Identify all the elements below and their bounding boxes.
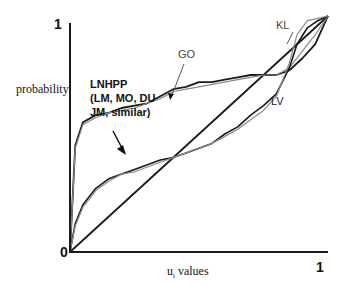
lnhpp-line-2: (LM, MO, DU — [90, 91, 155, 105]
y-tick-1: 1 — [54, 16, 62, 32]
diagonal-reference-line — [70, 16, 328, 252]
plot-area — [70, 16, 328, 252]
lnhpp-line-1: LNHPP — [90, 77, 155, 91]
y-axis-label: probability — [16, 82, 69, 97]
origin-tick-0: 0 — [60, 244, 68, 260]
chart-canvas — [0, 0, 346, 285]
x-tick-1: 1 — [316, 259, 324, 275]
lv-annotation: LV — [271, 95, 284, 107]
kl-leader — [287, 32, 293, 44]
go-arrowhead-icon — [168, 93, 174, 100]
go-annotation: GO — [178, 48, 195, 60]
lnhpp-annotation: LNHPP (LM, MO, DU JM, similar) — [90, 77, 155, 119]
kl-annotation: KL — [276, 19, 289, 31]
x-axis-label: ui values — [167, 264, 209, 280]
x-axis-label-rest: values — [175, 264, 209, 278]
lnhpp-arrowhead-icon — [117, 145, 126, 155]
lnhpp-line-3: JM, similar) — [90, 105, 155, 119]
